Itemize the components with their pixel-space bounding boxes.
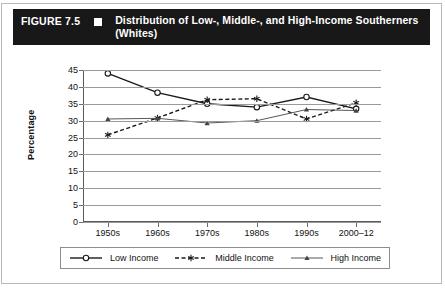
x-tick-label: 1950s bbox=[96, 228, 121, 238]
plot-region bbox=[83, 70, 381, 222]
y-axis-label: Percentage bbox=[26, 109, 36, 160]
x-tick-label: 1970s bbox=[195, 228, 220, 238]
legend-label: High Income bbox=[331, 253, 382, 263]
y-tick-mark bbox=[79, 138, 83, 139]
y-tick-label: 45 bbox=[68, 65, 78, 75]
y-axis-tick-labels: 051015202530354045 bbox=[48, 70, 78, 222]
y-tick-label: 30 bbox=[68, 116, 78, 126]
data-point-marker bbox=[105, 71, 110, 76]
y-tick-label: 10 bbox=[68, 183, 78, 193]
y-tick-mark bbox=[79, 222, 83, 223]
y-tick-label: 35 bbox=[68, 99, 78, 109]
y-tick-mark bbox=[79, 70, 83, 71]
figure-title-bar: FIGURE 7.5 Distribution of Low-, Middle-… bbox=[13, 9, 430, 45]
gridline bbox=[83, 104, 381, 105]
gridline bbox=[83, 205, 381, 206]
chart-legend: Low IncomeMiddle IncomeHigh Income bbox=[60, 247, 390, 269]
x-tick-mark bbox=[257, 223, 258, 227]
legend-item[interactable]: High Income bbox=[290, 252, 382, 264]
y-tick-mark bbox=[79, 154, 83, 155]
y-tick-mark bbox=[79, 171, 83, 172]
x-tick-mark bbox=[307, 223, 308, 227]
y-tick-label: 20 bbox=[68, 149, 78, 159]
gridline bbox=[83, 138, 381, 139]
x-tick-label: 2000–12 bbox=[339, 228, 374, 238]
y-tick-label: 0 bbox=[73, 217, 78, 227]
legend-label: Middle Income bbox=[215, 253, 274, 263]
y-tick-label: 25 bbox=[68, 133, 78, 143]
figure-title: Distribution of Low-, Middle-, and High-… bbox=[115, 14, 424, 39]
data-point-marker bbox=[304, 94, 309, 99]
y-tick-mark bbox=[79, 188, 83, 189]
x-tick-mark bbox=[108, 223, 109, 227]
data-point-marker bbox=[155, 90, 160, 95]
figure-page: FIGURE 7.5 Distribution of Low-, Middle-… bbox=[0, 0, 445, 288]
gridline bbox=[83, 171, 381, 172]
gridline bbox=[83, 87, 381, 88]
gridline bbox=[83, 222, 381, 223]
y-tick-label: 5 bbox=[73, 200, 78, 210]
data-series-layer bbox=[83, 70, 381, 223]
y-tick-mark bbox=[79, 205, 83, 206]
legend-marker-icon bbox=[69, 252, 103, 264]
data-point-marker bbox=[353, 100, 359, 106]
y-tick-mark bbox=[79, 121, 83, 122]
gridline bbox=[83, 70, 381, 71]
gridline bbox=[83, 121, 381, 122]
x-tick-label: 1990s bbox=[294, 228, 319, 238]
x-axis-tick-labels: 1950s1960s1970s1980s1990s2000–12 bbox=[83, 228, 381, 244]
x-tick-label: 1960s bbox=[145, 228, 170, 238]
legend-item[interactable]: Low Income bbox=[69, 252, 159, 264]
y-tick-mark bbox=[79, 104, 83, 105]
data-point-marker bbox=[254, 104, 259, 109]
x-tick-mark bbox=[207, 223, 208, 227]
legend-marker-icon bbox=[174, 252, 208, 264]
y-tick-label: 15 bbox=[68, 166, 78, 176]
legend-label: Low Income bbox=[110, 253, 159, 263]
gridline bbox=[83, 188, 381, 189]
x-tick-mark bbox=[158, 223, 159, 227]
legend-item[interactable]: Middle Income bbox=[174, 252, 274, 264]
figure-number: FIGURE 7.5 bbox=[21, 15, 80, 27]
x-tick-mark bbox=[356, 223, 357, 227]
y-tick-label: 40 bbox=[68, 82, 78, 92]
gridline bbox=[83, 154, 381, 155]
filled-square-icon bbox=[94, 18, 102, 26]
chart-area: Percentage 051015202530354045 1950s1960s… bbox=[0, 52, 445, 288]
y-tick-mark bbox=[79, 87, 83, 88]
legend-marker-icon bbox=[290, 252, 324, 264]
x-tick-label: 1980s bbox=[245, 228, 270, 238]
